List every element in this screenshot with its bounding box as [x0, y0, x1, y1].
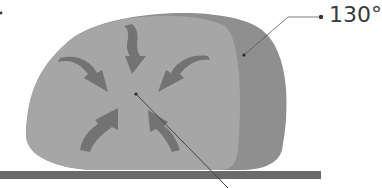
edge-mark: [0, 12, 2, 15]
callout-dot: [319, 15, 323, 19]
temperature-label: 130°: [329, 2, 382, 27]
base-plate: [0, 171, 321, 179]
